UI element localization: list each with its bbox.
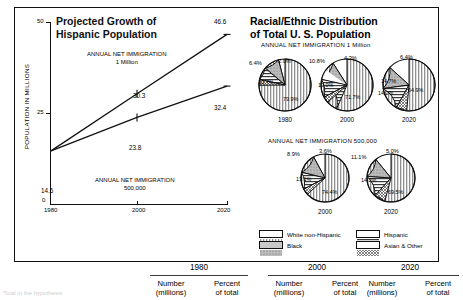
legend-swatch-black-icon: [259, 241, 283, 249]
pie-chart-panel: Racial/Ethnic Distribution of Total U. S…: [233, 8, 438, 261]
table-subcol-number-2020-line2: (millions): [357, 288, 407, 297]
pct-white-2000-500k: 74.4%: [322, 189, 337, 195]
pie-chart-title-line2: of Total U. S. Population: [250, 28, 425, 41]
pct-asian-1980-1m: 2.0%: [278, 58, 291, 64]
table-header-area: Total in the hypothesis 1980 Number (mil…: [0, 263, 443, 300]
legend-swatch-white-non-hispanic-icon: [259, 230, 283, 238]
pie-year-2000-1m: 2000: [313, 116, 381, 123]
pct-hispanic-2000-500k: 8.9%: [287, 151, 300, 157]
legend-item-white-non-hispanic: White non-Hispanic: [259, 230, 341, 238]
table-subcol-number-2000-line2: (millions): [264, 288, 314, 297]
pct-black-2020-500k: 14.2%: [361, 177, 376, 183]
legend-label-white-non-hispanic: White non-Hispanic: [287, 231, 341, 238]
pct-white-2020-1m: 64.9%: [408, 87, 423, 93]
pct-hispanic-2020-500k: 11.1%: [351, 154, 366, 160]
legend-label-hispanic: Hispanic: [384, 231, 408, 238]
pct-white-2000-1m: 71.7%: [345, 94, 360, 100]
legend-item-black: Black: [259, 241, 302, 249]
pie-cell-2020-500k: 2020 11.1% 5.0% 14.2% 69.5%: [357, 148, 425, 226]
pct-asian-2020-500k: 5.0%: [386, 148, 399, 154]
table-subcol-number-2000: Number (millions): [264, 279, 314, 297]
table-subcol-number-1980-line1: Number: [146, 279, 196, 288]
table-group-year-2020: 2020: [351, 263, 463, 275]
pct-asian-2000-500k: 3.6%: [319, 148, 332, 154]
pie-chart-title-line1: Racial/Ethnic Distribution: [250, 15, 425, 28]
legend-row-1: White non-Hispanic Hispanic: [259, 230, 437, 241]
table-group-2020: 2020 Number (millions) Percent of total: [351, 263, 463, 297]
pct-asian-2020-1m: 6.4%: [400, 54, 413, 60]
legend-swatch-asian-other-icon: [356, 241, 380, 249]
table-subcol-percent-1980-line1: Percent: [202, 279, 252, 288]
table-subcol-number-2020: Number (millions): [357, 279, 407, 297]
pie-row-1-million: 1980 6.4% 2.0% 11.7% 79.9%: [233, 52, 438, 134]
data-label-30-3: 30.3: [133, 92, 145, 99]
pie-chart-legend: White non-Hispanic Hispanic Black: [259, 230, 437, 252]
pie-row1-header: ANNUAL NET IMMIGRATION 1 Million: [261, 42, 371, 48]
legend-row-2: Black Asian & Other: [259, 241, 437, 252]
legend-item-hispanic: Hispanic: [356, 230, 408, 238]
table-subcol-percent-2020: Percent of total: [413, 279, 463, 297]
pct-black-2000-1m: 13.0%: [318, 82, 333, 88]
table-subcol-number-1980-line2: (millions): [146, 288, 196, 297]
pct-asian-2000-1m: 4.3%: [344, 55, 357, 61]
table-subcol-number-1980: Number (millions): [146, 279, 196, 297]
pie-year-1980-1m: 1980: [251, 116, 319, 123]
pie-row-500000: 2000 8.9% 3.6% 13.1% 74.4% 2020: [233, 148, 438, 226]
pct-black-1980-1m: 11.7%: [259, 79, 274, 85]
table-stub-label: Total in the hypothesis: [3, 290, 62, 296]
pct-white-1980-1m: 79.9%: [283, 96, 298, 102]
pie-chart-title: Racial/Ethnic Distribution of Total U. S…: [250, 15, 425, 40]
data-label-23-8: 23.8: [129, 144, 141, 151]
pct-black-2000-500k: 13.1%: [296, 176, 311, 182]
line-chart-panel: Projected Growth of Hispanic Population …: [15, 8, 233, 261]
pct-hispanic-2000-1m: 10.8%: [309, 58, 325, 64]
pie-row2-header: ANNUAL NET IMMIGRATION 500,000: [268, 138, 377, 144]
pie-year-2000-500k: 2000: [291, 208, 359, 215]
data-label-46-6: 46.6: [214, 18, 226, 25]
annotation-immigration-1-million: ANNUAL NET IMMIGRATION 1 Million: [87, 50, 167, 66]
table-subcol-percent-2020-line1: Percent: [413, 279, 463, 288]
line-chart-plot: [15, 8, 233, 261]
legend-label-black: Black: [287, 242, 302, 249]
figure-frame: Projected Growth of Hispanic Population …: [14, 7, 439, 262]
pie-year-2020-1m: 2020: [375, 116, 443, 123]
table-subcol-percent-1980-line2: of total: [202, 288, 252, 297]
table-group-1980: 1980 Number (millions) Percent of total: [140, 263, 258, 297]
pie-cell-2020-1m: 2020 6.4% 14.7% 14.2% 64.9%: [375, 52, 443, 130]
pct-white-2020-500k: 69.5%: [388, 189, 403, 195]
annotation-1m-line1: ANNUAL NET IMMIGRATION: [87, 50, 167, 58]
pie-year-2020-500k: 2020: [357, 208, 425, 215]
annotation-1m-line2: 1 Million: [87, 58, 167, 66]
table-group-year-1980: 1980: [140, 263, 258, 275]
annotation-500k-line2: 500,000: [95, 184, 175, 192]
table-subcol-number-2000-line1: Number: [264, 279, 314, 288]
annotation-500k-line1: ANNUAL NET IMMIGRATION: [95, 176, 175, 184]
annotation-immigration-500000: ANNUAL NET IMMIGRATION 500,000: [95, 176, 175, 192]
pct-hispanic-2020-1m: 14.7%: [381, 78, 396, 84]
table-subcol-percent-2020-line2: of total: [413, 288, 463, 297]
table-subcol-percent-1980: Percent of total: [202, 279, 252, 297]
pct-black-2020-1m: 14.2%: [378, 90, 393, 96]
table-subcol-number-2020-line1: Number: [357, 279, 407, 288]
legend-label-asian-other: Asian & Other: [384, 242, 423, 249]
pie-cell-2000-1m: 2000 10.8% 4.3% 13.0% 71.7%: [313, 52, 381, 130]
data-label-32-4: 32.4: [214, 104, 226, 111]
legend-item-asian-other: Asian & Other: [356, 241, 423, 249]
pie-cell-2000-500k: 2000 8.9% 3.6% 13.1% 74.4%: [291, 148, 359, 226]
legend-swatch-hispanic-icon: [356, 230, 380, 238]
data-label-14-6: 14.6: [41, 187, 53, 194]
pct-hispanic-1980-1m: 6.4%: [249, 60, 262, 66]
